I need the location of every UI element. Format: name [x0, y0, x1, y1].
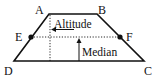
vertex-label-c: C	[144, 64, 152, 78]
midpoint-e-dot	[28, 34, 33, 39]
vertex-label-a: A	[35, 3, 44, 17]
median-label: Median	[82, 46, 117, 58]
vertex-label-b: B	[98, 3, 106, 17]
vertex-label-d: D	[4, 64, 13, 78]
trapezoid-diagram: A B D C E F Altitude Median	[0, 0, 157, 79]
midpoint-label-e: E	[15, 30, 22, 44]
altitude-label: Altitude	[54, 18, 92, 30]
midpoint-f-dot	[117, 34, 122, 39]
midpoint-label-f: F	[126, 30, 133, 44]
median-arrowhead-icon	[77, 38, 82, 43]
